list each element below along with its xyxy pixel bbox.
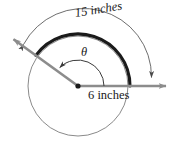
intercepted-arc (36, 34, 130, 86)
arc-length-dimension-arc (24, 8, 152, 77)
geometry-diagram-canvas (0, 0, 175, 150)
radius-label: 6 inches (88, 89, 129, 102)
vertex-dot (75, 83, 80, 88)
geometry-figure: 15 inches 6 inches θ (0, 0, 175, 150)
theta-angle-label: θ (81, 46, 87, 59)
theta-angle-arc (60, 60, 104, 86)
